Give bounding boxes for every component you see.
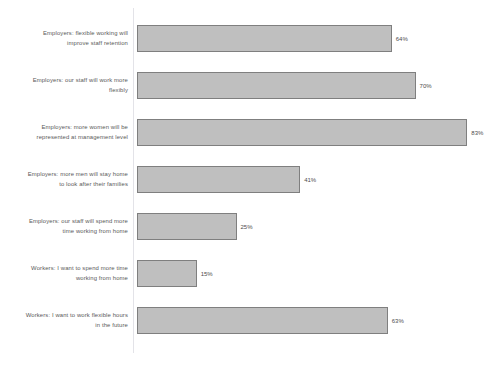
- bar-value-label: 25%: [237, 224, 253, 230]
- bar-rect: [137, 166, 300, 193]
- bar-rect: [137, 25, 392, 52]
- bar-row: Workers: I want to spend more time worki…: [0, 251, 503, 297]
- bar-category-label: Employers: our staff will spend more tim…: [8, 204, 128, 250]
- bar-row: Employers: flexible working will improve…: [0, 16, 503, 62]
- bar-category-label: Employers: more men will stay home to lo…: [8, 157, 128, 203]
- bar-rect: [137, 307, 388, 334]
- bar-rect: [137, 72, 416, 99]
- bar-value-label: 70%: [416, 83, 432, 89]
- bar-row: Employers: our staff will spend more tim…: [0, 204, 503, 250]
- bar-value-label: 41%: [300, 177, 316, 183]
- bar-value-label: 64%: [392, 36, 408, 42]
- bar-category-label: Employers: more women will be represente…: [8, 110, 128, 156]
- bar-value-label: 63%: [388, 318, 404, 324]
- bar-category-label: Workers: I want to work flexible hours i…: [8, 298, 128, 344]
- bar-category-label: Workers: I want to spend more time worki…: [8, 251, 128, 297]
- bar-row: Workers: I want to work flexible hours i…: [0, 298, 503, 344]
- bar-row: Employers: more men will stay home to lo…: [0, 157, 503, 203]
- bar-rect: [137, 213, 237, 240]
- bar-rect: [137, 260, 197, 287]
- bar-chart: Employers: flexible working will improve…: [0, 0, 503, 368]
- bar-category-label: Employers: our staff will work more flex…: [8, 63, 128, 109]
- bar-row: Employers: our staff will work more flex…: [0, 63, 503, 109]
- bar-rect: [137, 119, 467, 146]
- bar-row: Employers: more women will be represente…: [0, 110, 503, 156]
- bar-value-label: 83%: [467, 130, 483, 136]
- plot-area: Employers: flexible working will improve…: [0, 0, 503, 368]
- bar-category-label: Employers: flexible working will improve…: [8, 16, 128, 62]
- bar-value-label: 15%: [197, 271, 213, 277]
